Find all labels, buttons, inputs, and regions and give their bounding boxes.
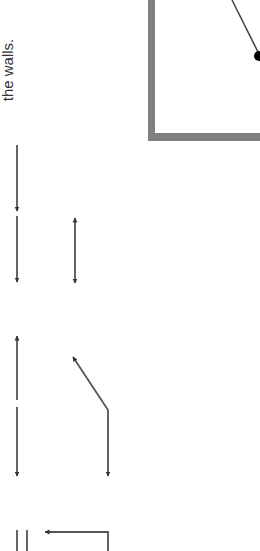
pendulum-string bbox=[232, 0, 258, 52]
wall-left bbox=[148, 0, 155, 141]
wall-bottom bbox=[148, 133, 260, 141]
physics-diagram bbox=[0, 0, 260, 551]
arrow-bent-icon bbox=[73, 357, 108, 476]
arrow-l-left-icon bbox=[45, 532, 108, 551]
pendulum-bob bbox=[254, 51, 260, 61]
pendulum bbox=[232, 0, 260, 61]
